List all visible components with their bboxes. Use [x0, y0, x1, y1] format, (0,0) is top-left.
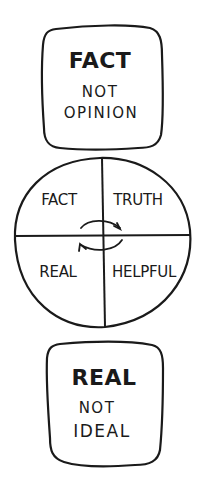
bottom-card-line1: NOT [62, 401, 132, 416]
quadrant-label-bottom-right: HELPFUL [106, 265, 182, 280]
quadrant-label-bottom-left: REAL [32, 265, 84, 280]
top-card-line2: OPINION [55, 106, 147, 121]
horizontal-divider [15, 235, 190, 236]
vertical-divider [102, 158, 105, 327]
bottom-card-title: REAL [66, 367, 142, 389]
quadrant-label-top-left: FACT [34, 193, 84, 208]
top-card-line1: NOT [62, 85, 138, 100]
quadrant-label-top-right: TRUTH [109, 193, 167, 208]
top-card-title: FACT [62, 50, 138, 72]
bottom-card-line2: IDEAL [62, 423, 142, 440]
